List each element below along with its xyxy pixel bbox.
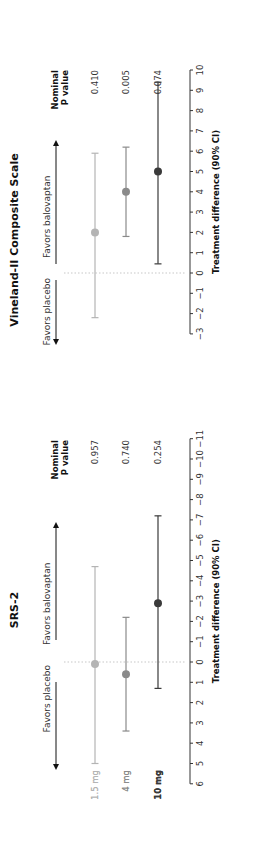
x-axis-tick-label: 3 (195, 209, 205, 214)
pvalue-header-line2: P value (60, 440, 70, 475)
x-axis-tick-label: 0 (195, 659, 205, 664)
forest-plot-figure: SRS-2Favors placeboFavors balovaptanNomi… (0, 0, 255, 842)
x-axis-tick-label: 3 (195, 720, 205, 725)
point-estimate-marker (122, 670, 130, 678)
point-estimate-marker (122, 188, 130, 196)
point-estimate-marker (91, 228, 99, 236)
x-axis-tick-label: −1 (195, 635, 205, 648)
x-axis-tick-label: 0 (195, 270, 205, 275)
arrow-right-icon (53, 522, 59, 528)
p-value: 0.005 (121, 70, 131, 94)
point-estimate-marker (154, 599, 162, 607)
point-estimate-marker (91, 660, 99, 668)
x-axis-tick-label: 5 (195, 761, 205, 766)
x-axis-tick-label: −2 (195, 615, 205, 628)
arrow-left-icon (53, 339, 59, 345)
x-axis-tick-label: −10 (195, 450, 205, 468)
p-value: 0.074 (153, 70, 163, 94)
favors-placebo-label: Favors placebo (42, 278, 52, 346)
x-axis-tick-label: 8 (195, 108, 205, 113)
p-value: 0.957 (90, 440, 100, 464)
arrow-right-icon (53, 140, 59, 146)
dose-label: 1.5 mg (90, 770, 100, 800)
x-axis-tick-label: 2 (195, 230, 205, 235)
x-axis-tick-label: 6 (195, 781, 205, 786)
x-axis-tick-label: −6 (195, 534, 205, 547)
x-axis-tick-label: −5 (195, 554, 205, 567)
x-axis-tick-label: −3 (195, 328, 205, 341)
x-axis-tick-label: −9 (195, 473, 205, 486)
point-estimate-marker (154, 168, 162, 176)
p-value: 0.410 (90, 70, 100, 94)
x-axis-tick-label: −2 (195, 307, 205, 320)
p-value: 0.740 (121, 440, 131, 464)
favors-balovaptan-label: Favors balovaptan (42, 176, 52, 259)
chart-title: SRS-2 (8, 592, 21, 629)
pvalue-header-line2: P value (60, 70, 70, 105)
pvalue-header-line1: Nominal (50, 440, 60, 480)
chart-title: Vineland-II Composite Scale (8, 153, 21, 326)
dose-label: 10 mg (153, 770, 163, 800)
x-axis-label: Treatment difference (90% CI) (211, 539, 221, 683)
x-axis-tick-label: 4 (195, 740, 205, 745)
figure-canvas: SRS-2Favors placeboFavors balovaptanNomi… (0, 0, 255, 842)
p-value: 0.254 (153, 440, 163, 464)
x-axis-tick-label: −8 (195, 493, 205, 506)
favors-placebo-label: Favors placebo (42, 665, 52, 733)
x-axis-tick-label: −7 (195, 514, 205, 527)
pvalue-header-line1: Nominal (50, 70, 60, 110)
x-axis-tick-label: 5 (195, 169, 205, 174)
x-axis-tick-label: −4 (195, 575, 205, 588)
x-axis-tick-label: 1 (195, 250, 205, 255)
dose-label: 4 mg (121, 770, 131, 792)
x-axis-tick-label: 6 (195, 148, 205, 153)
x-axis-tick-label: 9 (195, 88, 205, 93)
x-axis-tick-label: 4 (195, 189, 205, 194)
arrow-left-icon (53, 764, 59, 770)
x-axis-tick-label: −1 (195, 287, 205, 300)
x-axis-label: Treatment difference (90% CI) (211, 130, 221, 274)
x-axis-tick-label: 10 (195, 65, 205, 76)
x-axis-tick-label: 1 (195, 680, 205, 685)
x-axis-tick-label: 7 (195, 128, 205, 133)
x-axis-tick-label: −11 (195, 430, 205, 448)
favors-balovaptan-label: Favors balovaptan (42, 563, 52, 646)
x-axis-tick-label: 2 (195, 700, 205, 705)
x-axis-tick-label: −3 (195, 595, 205, 608)
